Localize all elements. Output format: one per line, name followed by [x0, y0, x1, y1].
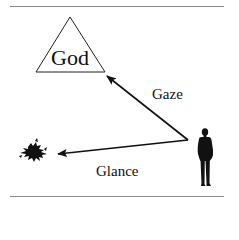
- gaze-label: Gaze: [152, 87, 183, 102]
- glance-label: Glance: [96, 164, 138, 179]
- glance-arrow: [58, 140, 188, 154]
- person-silhouette-icon: [198, 128, 213, 186]
- god-label: God: [51, 47, 89, 69]
- splat-blob-icon: [19, 138, 47, 162]
